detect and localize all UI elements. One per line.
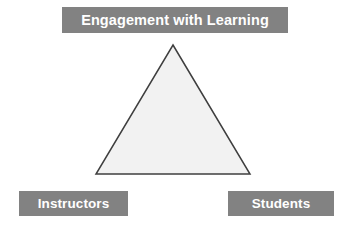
- label-students: Students: [228, 191, 334, 216]
- label-instructors: Instructors: [19, 191, 128, 216]
- diagram-canvas: Engagement with Learning Instructors Stu…: [0, 0, 355, 226]
- triangle-polygon: [96, 45, 250, 174]
